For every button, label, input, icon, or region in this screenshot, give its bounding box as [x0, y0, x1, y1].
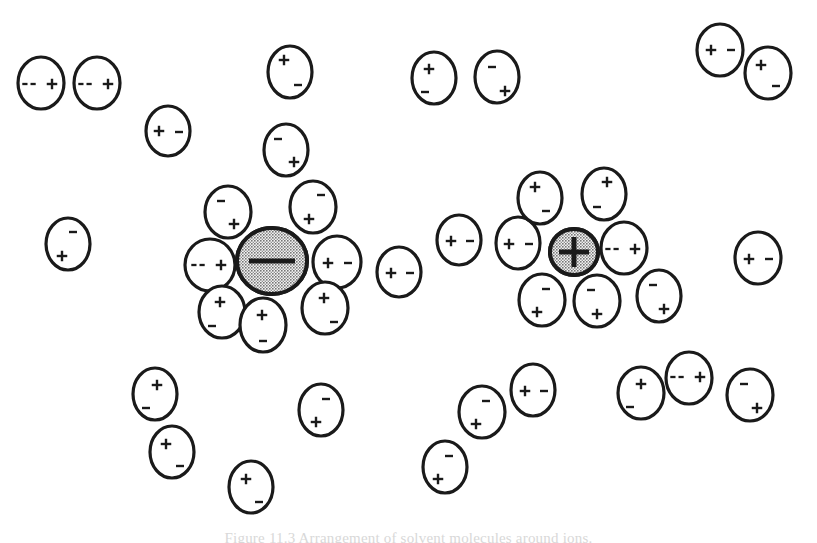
solvent-molecule: [412, 52, 456, 104]
molecule-positive-pole: [534, 182, 536, 193]
molecule-negative-pole: [421, 91, 429, 93]
molecule-negative-pole: [765, 258, 773, 260]
molecule-negative-pole: [344, 262, 352, 264]
molecule-positive-pole: [165, 439, 167, 450]
solvent-molecule: [518, 172, 562, 224]
molecule-positive-pole: [536, 307, 538, 318]
molecule-negative-pole: [78, 83, 83, 85]
molecule-negative-pole: [255, 501, 263, 503]
molecule-negative-pole: [317, 194, 325, 196]
molecule-positive-pole: [756, 403, 758, 414]
solvent-molecule: [459, 386, 505, 438]
solvent-molecule: [313, 236, 361, 288]
solvent-molecule: [199, 286, 245, 338]
molecule-positive-pole: [504, 86, 506, 97]
molecule-negative-pole: [200, 264, 205, 266]
solvent-molecule: [582, 168, 626, 220]
molecule-positive-pole: [220, 260, 222, 271]
molecule-negative-pole: [593, 206, 601, 208]
molecule-negative-pole: [31, 83, 36, 85]
ion-solvation-figure: Figure 11.3 Arrangement of solvent molec…: [0, 0, 817, 543]
molecule-negative-pole: [488, 66, 496, 68]
solvent-molecule: [475, 51, 519, 103]
molecule-positive-pole: [699, 372, 701, 383]
positive-ion: [550, 229, 598, 275]
molecule-negative-pole: [22, 83, 27, 85]
molecule-negative-pole: [587, 289, 595, 291]
solvent-molecule: [437, 215, 481, 265]
solvent-molecule: [205, 186, 251, 238]
molecule-positive-pole: [315, 417, 317, 428]
molecule-positive-pole: [437, 474, 439, 485]
molecule-positive-pole: [475, 419, 477, 430]
molecule-positive-pole: [760, 60, 762, 71]
solvent-molecule: [496, 217, 540, 269]
molecule-positive-pole: [390, 268, 392, 279]
solvent-molecule: [745, 47, 791, 99]
solvent-molecule: [229, 461, 273, 513]
ion-charge-sign: [249, 259, 295, 264]
molecule-negative-pole: [294, 84, 302, 86]
solvent-molecule: [185, 239, 235, 291]
molecule-negative-pole: [466, 240, 474, 242]
solvent-molecule: [377, 247, 421, 297]
figure-caption: Figure 11.3 Arrangement of solvent molec…: [0, 530, 817, 543]
molecule-positive-pole: [219, 297, 221, 308]
molecule-negative-pole: [740, 383, 748, 385]
molecule-positive-pole: [61, 251, 63, 262]
molecule-negative-pole: [727, 49, 735, 51]
molecule-negative-pole: [406, 272, 414, 274]
solvent-molecule: [697, 24, 743, 76]
solvent-molecule: [519, 274, 565, 326]
molecule-negative-pole: [772, 85, 780, 87]
molecule-negative-pole: [525, 243, 533, 245]
solvent-molecule: [290, 181, 336, 233]
molecule-negative-pole: [176, 465, 184, 467]
solvent-molecule: [240, 298, 286, 352]
molecule-positive-pole: [450, 236, 452, 247]
molecule-negative-pole: [670, 376, 675, 378]
molecule-negative-pole: [274, 138, 282, 140]
solvent-molecule: [511, 364, 555, 416]
molecule-positive-pole: [293, 157, 295, 168]
molecule-positive-pole: [748, 254, 750, 265]
molecule-negative-pole: [649, 284, 657, 286]
molecule-negative-pole: [259, 340, 267, 342]
molecule-positive-pole: [524, 386, 526, 397]
molecule-negative-pole: [175, 131, 183, 133]
molecule-negative-pole: [614, 248, 619, 250]
molecule-positive-pole: [323, 293, 325, 304]
molecule-positive-pole: [261, 310, 263, 321]
molecule-negative-pole: [540, 390, 548, 392]
solvent-molecule: [302, 282, 348, 334]
molecule-positive-pole: [158, 126, 160, 137]
solvent-molecule: [601, 222, 647, 274]
molecule-negative-pole: [208, 325, 216, 327]
solvent-molecule: [133, 368, 177, 420]
molecule-positive-pole: [428, 64, 430, 75]
molecule-negative-pole: [142, 407, 150, 409]
negative-ion: [237, 228, 307, 294]
molecule-negative-pole: [69, 231, 77, 233]
molecule-positive-pole: [710, 45, 712, 56]
molecule-positive-pole: [663, 304, 665, 315]
solvent-molecule: [18, 57, 64, 109]
molecule-positive-pole: [640, 379, 642, 390]
solvent-molecule: [666, 352, 712, 404]
solvent-molecule: [299, 384, 343, 436]
molecule-positive-pole: [327, 258, 329, 269]
molecule-positive-pole: [107, 79, 109, 90]
molecule-positive-pole: [233, 219, 235, 230]
molecule-positive-pole: [156, 380, 158, 391]
molecule-positive-pole: [634, 244, 636, 255]
molecule-positive-pole: [508, 239, 510, 250]
solvent-molecule: [423, 441, 467, 493]
ion-charge-sign: [572, 237, 577, 267]
molecule-negative-pole: [445, 455, 453, 457]
molecule-negative-pole: [322, 398, 330, 400]
molecule-positive-pole: [283, 55, 285, 66]
molecule-positive-pole: [51, 79, 53, 90]
solvent-molecule: [268, 46, 312, 98]
solvent-molecule: [150, 426, 194, 478]
molecule-positive-pole: [245, 474, 247, 485]
